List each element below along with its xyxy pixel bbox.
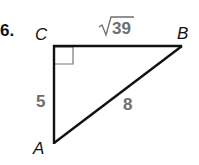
vertex-c-label: C (35, 25, 48, 44)
diagram-canvas: 6. C B A 39 5 8 (0, 0, 199, 165)
vertex-b-label: B (177, 24, 188, 43)
triangle-diagram: 6. C B A 39 5 8 (0, 0, 199, 165)
side-ca-label: 5 (36, 92, 45, 111)
side-cb-label: 39 (99, 17, 134, 38)
right-angle-marker (55, 47, 73, 64)
side-cb-value: 39 (112, 19, 131, 38)
side-ab-label: 8 (123, 95, 132, 114)
vertex-a-label: A (32, 139, 44, 158)
problem-number: 6. (0, 21, 14, 40)
